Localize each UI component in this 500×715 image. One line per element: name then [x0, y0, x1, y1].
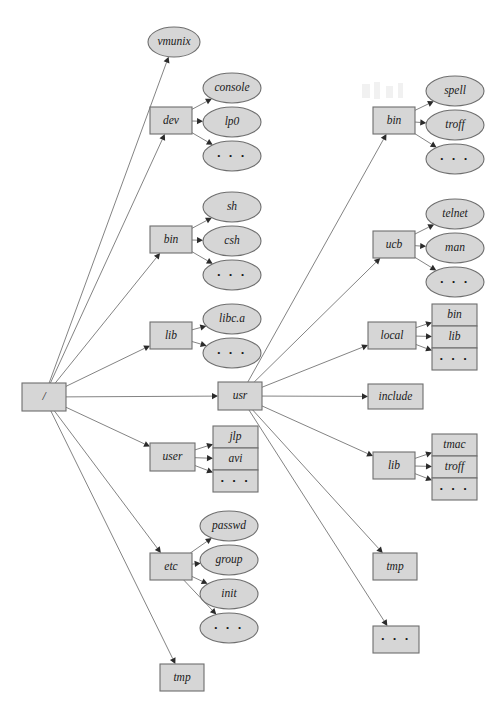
node-dev-dots[interactable]: · · · [203, 141, 261, 171]
node-bin-sh[interactable]: sh [203, 192, 261, 222]
edge-bin-to-bin-dots [192, 252, 213, 264]
node-usr-dots[interactable]: · · · [373, 626, 419, 653]
node-usrlib-troff[interactable]: troff [432, 456, 477, 478]
node-label-user-avi: avi [228, 452, 242, 464]
edge-bin-to-bin-csh [192, 237, 203, 243]
node-label-user-dots: · · · [220, 473, 250, 488]
node-local-lib[interactable]: lib [432, 326, 477, 348]
arrow-head [430, 265, 437, 271]
arrow-head [425, 321, 432, 327]
node-lib[interactable]: lib [150, 322, 192, 349]
scan-artifact [374, 82, 380, 99]
node-ucb-dots[interactable]: · · · [426, 267, 484, 297]
scan-artifact [398, 83, 403, 98]
node-label-usr-dots: · · · [381, 631, 411, 646]
node-bin[interactable]: bin [150, 226, 192, 253]
node-bin-csh[interactable]: csh [203, 226, 261, 256]
node-etc-passwd[interactable]: passwd [200, 511, 258, 541]
node-bin-dots[interactable]: · · · [203, 260, 261, 290]
node-user-dots[interactable]: · · · [213, 470, 258, 492]
node-usrlib-dots[interactable]: · · · [432, 478, 477, 500]
node-label-usr-local: local [381, 329, 404, 341]
arrow-head [155, 546, 161, 553]
arrow-head [197, 118, 203, 124]
edge-usr-to-usr-ucb [254, 258, 380, 382]
arrow-head [362, 393, 368, 399]
node-etc-init[interactable]: init [200, 579, 258, 609]
edge-usr-ucb-to-ucb-man [415, 243, 426, 249]
node-user-avi[interactable]: avi [213, 448, 258, 470]
node-user[interactable]: user [150, 443, 195, 471]
node-usr-tmp[interactable]: tmp [373, 553, 417, 580]
node-etc-dots[interactable]: · · · [200, 613, 258, 643]
node-vmunix[interactable]: vmunix [148, 27, 200, 57]
node-label-usr-include: include [379, 390, 413, 402]
node-label-tmp-root: tmp [173, 671, 191, 684]
edge-root-to-usr [66, 393, 218, 399]
edge-usr-local-to-local-bin [416, 321, 432, 327]
node-dev-lp0[interactable]: lp0 [203, 107, 261, 137]
node-lib-dots[interactable]: · · · [203, 338, 261, 368]
node-usr-ucb[interactable]: ucb [373, 231, 415, 258]
node-label-usr-ucb: ucb [386, 238, 403, 250]
node-label-bin-sh: sh [227, 200, 237, 212]
arrow-head [426, 333, 432, 339]
node-etc[interactable]: etc [150, 553, 192, 580]
node-label-usr-lib: lib [388, 459, 400, 471]
node-label-dev: dev [163, 114, 180, 126]
node-label-ucb-telnet: telnet [442, 207, 468, 219]
edge-usr-ucb-to-ucb-telnet [415, 224, 434, 234]
node-local-dots[interactable]: · · · [432, 348, 477, 370]
node-label-local-bin: bin [447, 308, 462, 320]
node-ucb-telnet[interactable]: telnet [426, 199, 484, 229]
edge-lib-to-lib-libca [192, 325, 206, 331]
arrow-head [382, 619, 388, 626]
scan-artifact [362, 84, 370, 98]
node-local-bin[interactable]: bin [432, 304, 477, 326]
node-tmp-root[interactable]: tmp [160, 664, 204, 691]
edge-root-to-lib [66, 345, 150, 386]
arrow-head [420, 119, 426, 125]
node-label-lib: lib [165, 329, 177, 341]
edge-bin-to-bin-sh [192, 218, 212, 229]
arrow-head [154, 253, 160, 260]
node-user-jlp[interactable]: jlp [213, 426, 258, 448]
node-usrlib-tmac[interactable]: tmac [432, 434, 477, 456]
node-label-usrbin-spell: spell [444, 84, 466, 97]
node-label-etc-passwd: passwd [211, 519, 246, 532]
edge-dev-to-dev-console [192, 99, 212, 110]
node-label-etc-init: init [221, 587, 237, 599]
node-usrbin-spell[interactable]: spell [426, 76, 484, 106]
node-etc-group[interactable]: group [200, 545, 258, 575]
node-usr[interactable]: usr [218, 382, 262, 410]
edge-user-to-user-jlp [195, 443, 213, 450]
edge-dev-to-dev-lp0 [192, 118, 203, 124]
node-usrbin-dots[interactable]: · · · [426, 144, 484, 174]
node-dev[interactable]: dev [150, 107, 192, 134]
edge-usr-to-usr-include [262, 393, 368, 399]
node-label-local-lib: lib [448, 330, 460, 342]
node-lib-libca[interactable]: libc.a [203, 304, 261, 334]
node-usrbin-troff[interactable]: troff [426, 110, 484, 140]
node-label-ucb-man: man [445, 241, 465, 253]
node-label-usr-tmp: tmp [386, 560, 404, 573]
node-ucb-man[interactable]: man [426, 233, 484, 263]
node-label-bin: bin [164, 233, 179, 245]
node-label-dev-lp0: lp0 [225, 115, 240, 128]
node-dev-console[interactable]: console [203, 73, 261, 103]
node-usr-local[interactable]: local [368, 322, 416, 349]
arrow-head [420, 243, 426, 249]
edge-root-to-bin [55, 253, 160, 383]
node-label-etc-group: group [215, 553, 242, 566]
node-label-usrlib-dots: · · · [439, 481, 469, 496]
node-usr-include[interactable]: include [368, 384, 423, 409]
node-label-lib-dots: · · · [217, 345, 247, 360]
node-usr-bin[interactable]: bin [373, 107, 415, 134]
edge-usr-lib-to-usrlib-troff [415, 463, 432, 469]
node-label-usrbin-dots: · · · [440, 151, 470, 166]
edge-root-to-etc [54, 411, 160, 553]
arrow-head [212, 393, 218, 399]
node-usr-lib[interactable]: lib [373, 452, 415, 479]
node-root[interactable]: / [22, 383, 66, 411]
edge-usr-to-usr-bin [248, 134, 387, 382]
